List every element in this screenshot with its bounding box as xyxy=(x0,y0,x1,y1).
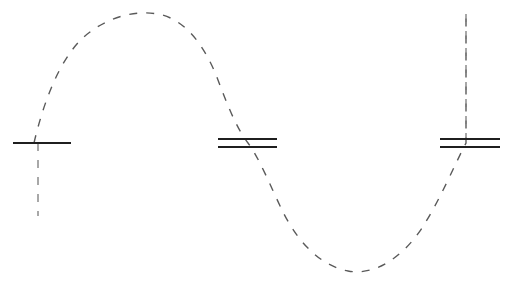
wave-plate-diagram xyxy=(0,0,508,284)
diagram-background xyxy=(0,0,508,284)
diagram-canvas xyxy=(0,0,508,284)
